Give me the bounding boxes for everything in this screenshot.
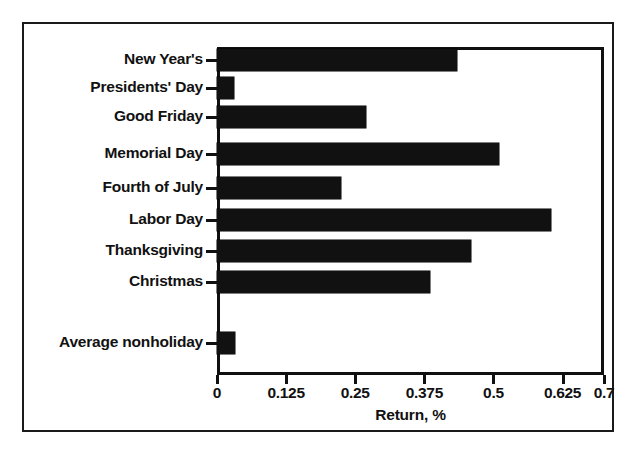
bar: [217, 332, 235, 354]
bar: [217, 177, 341, 199]
horizontal-bar-chart: New Year'sPresidents' DayGood FridayMemo…: [0, 0, 638, 456]
y-axis-label: Labor Day: [129, 211, 203, 227]
y-axis-label: Fourth of July: [102, 179, 203, 195]
y-axis-label: Average nonholiday: [59, 334, 203, 350]
x-axis-tick: [216, 375, 219, 384]
x-axis-tick-label: 0.25: [341, 384, 370, 402]
y-axis-label: Memorial Day: [105, 145, 203, 161]
y-axis-tick: [206, 153, 217, 156]
y-axis-label: Christmas: [129, 273, 203, 289]
bar-fill: [217, 209, 551, 231]
x-axis-tick: [354, 375, 357, 384]
x-axis-tick-label: 0.7: [594, 384, 615, 402]
x-axis-tick-label: 0.5: [483, 384, 504, 402]
y-axis-label: New Year's: [124, 51, 203, 67]
x-axis-tick: [562, 375, 565, 384]
x-axis-tick: [423, 375, 426, 384]
y-axis-label: Good Friday: [114, 108, 203, 124]
bar: [217, 106, 366, 128]
y-axis-tick: [206, 219, 217, 222]
x-axis-title: Return, %: [217, 406, 604, 424]
y-axis-tick: [206, 59, 217, 62]
bar-fill: [217, 332, 235, 354]
bar-fill: [217, 240, 471, 262]
bar-fill: [217, 49, 457, 71]
bar-fill: [217, 77, 234, 99]
bar-fill: [217, 143, 499, 165]
bar-fill: [217, 271, 430, 293]
y-axis-tick: [206, 281, 217, 284]
x-axis-tick-label: 0.125: [267, 384, 304, 402]
bar: [217, 77, 234, 99]
bar-fill: [217, 177, 341, 199]
x-axis-tick: [603, 375, 606, 384]
x-axis-tick-label: 0: [213, 384, 221, 402]
y-axis-tick: [206, 87, 217, 90]
y-axis-tick: [206, 116, 217, 119]
x-axis-tick: [285, 375, 288, 384]
x-axis-tick-label: 0.375: [406, 384, 443, 402]
bar: [217, 209, 551, 231]
bar-fill: [217, 106, 366, 128]
bar: [217, 143, 499, 165]
y-axis-tick: [206, 342, 217, 345]
y-axis-tick: [206, 250, 217, 253]
y-axis-label: Thanksgiving: [105, 242, 203, 258]
bar: [217, 271, 430, 293]
x-axis-tick-label: 0.625: [544, 384, 581, 402]
bar: [217, 49, 457, 71]
x-axis-tick: [492, 375, 495, 384]
y-axis-label: Presidents' Day: [90, 79, 203, 95]
bar: [217, 240, 471, 262]
y-axis-tick: [206, 187, 217, 190]
